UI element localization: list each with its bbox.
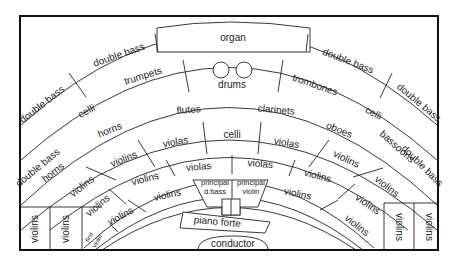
label-violas: violas [185, 160, 211, 173]
label-violas: violas [162, 134, 189, 149]
label-organ: organ [220, 32, 246, 43]
label-violins: violins [130, 170, 160, 188]
label-violins: violins [153, 186, 182, 203]
divider [138, 140, 155, 167]
divider [320, 200, 338, 210]
label-violins: violins [332, 148, 362, 170]
label-double-bass: double bass [92, 41, 147, 69]
label-clarinets: clarinets [257, 102, 295, 116]
label-violins: violins [60, 215, 71, 243]
label-double-bass: double bass [17, 83, 66, 125]
label-violins: violins [68, 173, 97, 199]
label-double-bass: double bass [321, 46, 375, 76]
label-conductor: conductor [211, 238, 256, 249]
divider [183, 60, 189, 92]
label-flutes: flutes [176, 103, 201, 116]
label-violins: violins [303, 167, 333, 185]
orchestra-seating-diagram: organ drums double bass double bass doub… [0, 0, 458, 264]
divider [309, 140, 329, 167]
label-violas: violas [273, 135, 300, 150]
label-horns: horns [96, 120, 123, 140]
label-violins: violins [373, 173, 402, 199]
divider [289, 160, 295, 176]
divider [203, 122, 207, 154]
divider [166, 160, 175, 176]
label-drums: drums [218, 79, 246, 90]
label-principal-violin: principal [237, 178, 265, 187]
label-celli: celli [223, 129, 240, 140]
label-violins: violins [29, 215, 40, 243]
divider [109, 189, 126, 204]
label-violins: violins [283, 185, 312, 202]
label-principal-dbass: principal [201, 178, 229, 187]
divider [380, 73, 392, 98]
drum-icon [236, 62, 252, 78]
label-trombones: trombones [291, 72, 339, 98]
label-principal-dbass: d.bass [204, 187, 226, 196]
label-celli: celli [363, 104, 383, 122]
label-violins: violins [106, 205, 136, 228]
label-celli: celli [76, 102, 96, 120]
label-violins: violins [424, 213, 435, 241]
label-violins: violins [109, 148, 139, 169]
label-violas: violas [247, 157, 273, 170]
drum-icon [213, 62, 229, 78]
label-violins: violins [353, 192, 382, 217]
label-principal-violin: violin [242, 187, 259, 196]
label-violins: violins [394, 213, 405, 241]
divider [278, 60, 283, 92]
label-oboes: oboes [325, 119, 354, 140]
label-double-bass: double bass [395, 81, 443, 124]
divider [258, 122, 261, 154]
